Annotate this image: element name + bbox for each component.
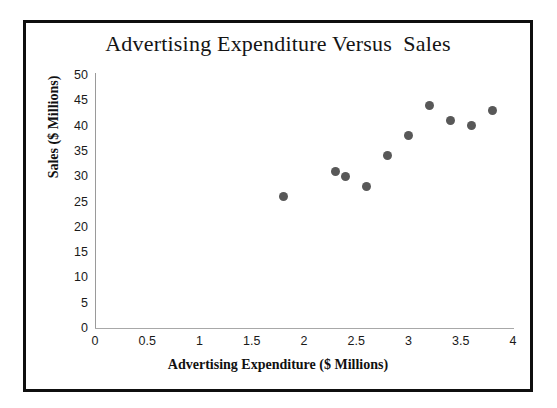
chart-title: Advertising Expenditure Versus Sales xyxy=(26,31,530,57)
y-axis-tick-label: 45 xyxy=(74,93,88,107)
y-axis-tick-label: 25 xyxy=(74,195,88,209)
data-point xyxy=(404,131,413,140)
data-point xyxy=(467,121,476,130)
x-axis-title: Advertising Expenditure ($ Millions) xyxy=(26,357,530,373)
y-axis-tick-label: 20 xyxy=(74,220,88,234)
x-axis-tick-label: 1 xyxy=(196,334,203,348)
x-axis-tick-label: 3 xyxy=(405,334,412,348)
data-point xyxy=(488,106,497,115)
x-axis-tick-label: 2.5 xyxy=(348,334,365,348)
y-axis-tick-label: 15 xyxy=(74,245,88,259)
y-axis-tick-label: 50 xyxy=(74,68,88,82)
data-point xyxy=(279,192,288,201)
chart-frame: Advertising Expenditure Versus Sales Sal… xyxy=(23,20,533,392)
data-point xyxy=(331,167,340,176)
y-axis-tick-labels: 05101520253035404550 xyxy=(26,23,88,395)
x-axis-tick-label: 3.5 xyxy=(452,334,469,348)
plot-area xyxy=(95,75,513,328)
y-axis-tick-label: 0 xyxy=(81,321,88,335)
chart-page: Advertising Expenditure Versus Sales Sal… xyxy=(0,0,557,408)
y-axis-tick-label: 5 xyxy=(81,296,88,310)
x-axis-tick-label: 0 xyxy=(92,334,99,348)
y-axis-tick-label: 35 xyxy=(74,144,88,158)
y-axis-tick-label: 30 xyxy=(74,169,88,183)
data-point xyxy=(341,172,350,181)
x-axis-tick-label: 2 xyxy=(301,334,308,348)
x-axis-tick-label: 0.5 xyxy=(139,334,156,348)
x-axis-line xyxy=(95,328,514,329)
y-axis-tick-label: 40 xyxy=(74,119,88,133)
y-axis-tick-label: 10 xyxy=(74,270,88,284)
data-point xyxy=(446,116,455,125)
data-point xyxy=(362,182,371,191)
data-point xyxy=(425,101,434,110)
data-point xyxy=(383,151,392,160)
x-axis-tick-label: 1.5 xyxy=(243,334,260,348)
x-axis-tick-label: 4 xyxy=(510,334,517,348)
